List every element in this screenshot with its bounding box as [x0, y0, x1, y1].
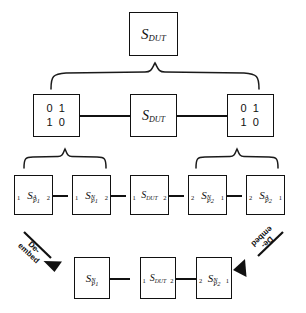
- row3-symbol-dut: SDUT: [141, 190, 158, 200]
- row4-symbol-spn-p2: SNP2: [208, 273, 220, 284]
- row3-port-left-1: 1: [17, 195, 20, 202]
- row3-port-right-4: 1: [221, 195, 224, 202]
- row4-port-left-p2: 2: [199, 278, 202, 285]
- row4-symbol-dut: SDUT: [150, 273, 167, 283]
- row3-port-left-5: 2: [249, 195, 252, 202]
- wire-row3-3: [168, 195, 184, 197]
- wire-row2-right: [176, 115, 228, 117]
- row3-symbol-spn-p2: SNP2: [201, 190, 213, 201]
- row2-dut-box: SDUT: [130, 94, 177, 137]
- row4-port-left-dut: 1: [143, 278, 146, 285]
- row2-left-identity-matrix: 0 1 1 0: [47, 102, 67, 130]
- row4-port-right-dut: 2: [170, 278, 173, 285]
- identity-row-2: 1 0: [47, 116, 67, 130]
- row4-port-right-p2: 1: [226, 278, 229, 285]
- row3-symbol-spa-p2: SAP2: [259, 190, 271, 201]
- row3-port-left-2: 1: [75, 195, 78, 202]
- identity-row-1: 0 1: [47, 102, 67, 116]
- deembed-arrowhead-right: [233, 259, 247, 277]
- row2-right-identity-matrix: 0 1 1 0: [241, 102, 261, 130]
- row4-block-spn-p1: SNP1: [74, 257, 110, 299]
- row3-port-left-4: 2: [191, 195, 194, 202]
- deembed-arrowhead-left: [44, 261, 63, 272]
- row1-dut-box: SDUT: [129, 12, 178, 56]
- row3-block-spn-p1: SNP1 1 2: [72, 175, 111, 215]
- brace-row2-right: [196, 149, 278, 168]
- row3-symbol-spa-p1: SAP1: [27, 190, 39, 201]
- row3-port-right-2: 2: [105, 195, 108, 202]
- row3-port-right-1: 2: [47, 195, 50, 202]
- row4-block-spn-p2: SNP2 2 1: [196, 257, 232, 299]
- row3-symbol-spn-p1: SNP1: [85, 190, 97, 201]
- wire-row2-left: [79, 115, 131, 117]
- wire-row3-4: [226, 195, 242, 197]
- identity-row-2: 1 0: [241, 116, 261, 130]
- brace-row2-left: [24, 149, 106, 168]
- row3-port-right-3: 2: [163, 195, 166, 202]
- row3-block-dut: SDUT 1 2: [130, 175, 169, 215]
- row2-left-identity-box: 0 1 1 0: [33, 94, 80, 137]
- row2-dut-symbol: SDUT: [142, 109, 165, 123]
- deembed-label-right: De- embed: [249, 224, 279, 254]
- row3-port-right-5: 1: [279, 195, 282, 202]
- wire-row4-2: [175, 278, 196, 280]
- diagram-canvas: SDUT 0 1 1 0 SDUT 0 1 1 0 SAP1 1 2 SNP1: [0, 0, 306, 313]
- wire-row3-2: [110, 195, 126, 197]
- row3-block-spn-p2: SNP2 2 1: [188, 175, 227, 215]
- row3-port-left-3: 1: [133, 195, 136, 202]
- row3-block-spa-p1: SAP1 1 2: [14, 175, 53, 215]
- row3-block-spa-p2: SAP2 2 1: [246, 175, 285, 215]
- row2-right-identity-box: 0 1 1 0: [227, 94, 274, 137]
- deembed-label-left: De- embed: [16, 236, 46, 266]
- row4-block-dut: SDUT 1 2: [140, 257, 176, 299]
- identity-row-1: 0 1: [241, 102, 261, 116]
- wire-row4-1: [109, 278, 130, 280]
- row1-dut-symbol: SDUT: [141, 27, 166, 42]
- wire-row3-1: [52, 195, 68, 197]
- row4-symbol-spn-p1: SNP1: [86, 273, 98, 284]
- brace-row1-to-row2: [51, 63, 259, 89]
